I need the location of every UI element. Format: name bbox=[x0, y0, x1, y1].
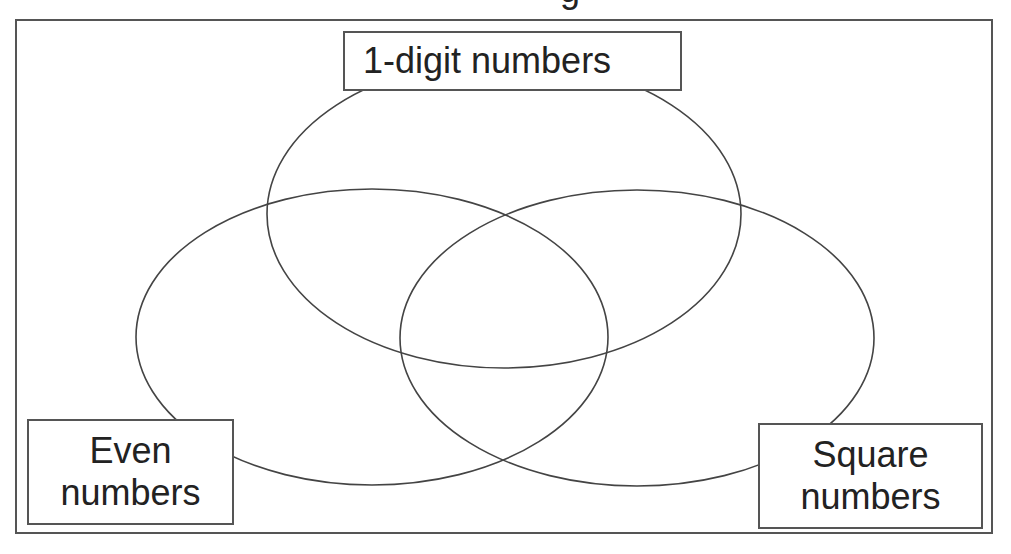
label-square-numbers: Square numbers bbox=[758, 423, 983, 529]
label-even-numbers: Even numbers bbox=[27, 419, 234, 525]
label-one-digit-numbers-text: 1-digit numbers bbox=[363, 40, 611, 82]
label-square-line-1: Square bbox=[812, 434, 928, 476]
label-square-line-2: numbers bbox=[800, 476, 940, 518]
label-even-line-1: Even bbox=[89, 430, 171, 472]
label-one-digit-numbers: 1-digit numbers bbox=[343, 31, 682, 91]
label-even-line-2: numbers bbox=[60, 472, 200, 514]
